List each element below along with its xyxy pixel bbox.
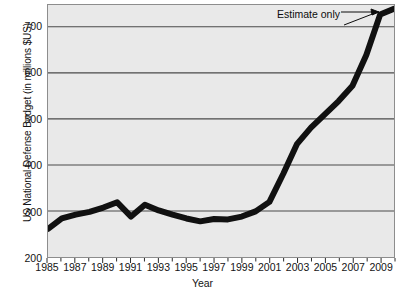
y-tick-label-700: 700 [12,21,42,31]
x-axis-tick-labels: 1985198719891991199319951997199920012003… [0,261,405,275]
y-tick-label-600: 600 [12,67,42,77]
y-tick-label-500: 500 [12,114,42,124]
y-tick-label-400: 400 [12,160,42,170]
defense-budget-chart-figure: US National Defense Budget (in millions … [0,0,405,293]
x-axis-title: Year [0,277,405,289]
y-tick-label-300: 300 [12,207,42,217]
gridlines [48,27,394,211]
estimate-only-annotation: Estimate only [277,8,340,20]
y-axis-tick-labels: 700 600 500 400 300 200 [8,0,42,293]
x-tick-label-2009: 2009 [361,261,401,273]
plot-canvas [48,5,394,257]
plot-area [47,4,395,258]
